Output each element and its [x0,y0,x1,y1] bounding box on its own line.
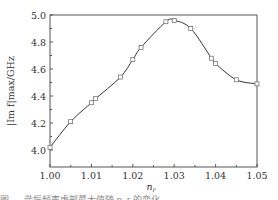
square-marker [214,62,218,66]
square-marker [139,45,143,49]
y-tick-label: 4.6 [31,64,46,75]
data-curve [50,19,257,147]
square-marker [89,101,93,105]
plot-frame [50,15,257,167]
data-markers [48,18,259,149]
y-tick-label: 5.0 [31,10,46,21]
y-axis-label: |Im f|max/GHz [5,56,17,126]
y-tick-label: 4.4 [31,91,46,102]
square-marker [131,58,135,62]
square-marker [69,120,73,124]
y-tick-label: 4.2 [31,118,46,129]
x-tick-label: 1.01 [81,170,102,181]
y-tick-label: 4.0 [31,145,46,156]
square-marker [48,145,52,149]
square-marker [234,78,238,82]
square-marker [209,56,213,60]
square-marker [118,75,122,79]
square-marker [172,18,176,22]
square-marker [164,20,168,24]
figure-caption: 图 … 谐振频率虚部最大值随 n_r 的变化 [0,193,278,200]
x-tick-label: 1.00 [39,170,60,181]
y-tick-label: 4.8 [31,37,46,48]
square-marker [94,97,98,101]
x-tick-label: 1.02 [122,170,143,181]
square-marker [189,27,193,31]
square-marker [255,82,259,86]
x-tick-label: 1.03 [164,170,185,181]
x-tick-label: 1.05 [246,170,267,181]
x-tick-label: 1.04 [205,170,226,181]
line-chart: 1.001.011.021.031.041.05 4.04.24.44.64.8… [0,0,278,200]
